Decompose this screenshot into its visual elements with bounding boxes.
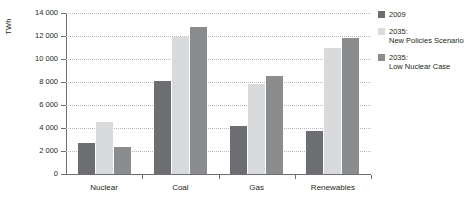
y-axis-title: TWh bbox=[4, 7, 13, 47]
y-axis-tick-label: 4 000 bbox=[39, 124, 58, 132]
y-axis-tick-label: 2 000 bbox=[39, 147, 58, 155]
x-axis-tick bbox=[142, 175, 143, 179]
bar bbox=[248, 84, 265, 174]
bar bbox=[154, 81, 171, 174]
x-axis-category-label: Coal bbox=[142, 183, 218, 192]
bar bbox=[172, 37, 189, 174]
bar-group-bars bbox=[295, 12, 371, 174]
bar bbox=[78, 143, 95, 174]
y-axis-tick-label: 10 000 bbox=[35, 55, 58, 63]
x-axis-category-label: Gas bbox=[219, 183, 295, 192]
x-axis-tick bbox=[371, 175, 372, 179]
bar bbox=[230, 126, 247, 174]
bar-group-bars bbox=[66, 12, 142, 174]
bar-group: Renewables bbox=[295, 12, 371, 174]
bar-group-bars bbox=[142, 12, 218, 174]
y-axis-tick-label: 6 000 bbox=[39, 101, 58, 109]
bar bbox=[342, 38, 359, 174]
y-axis-tick bbox=[61, 174, 66, 175]
plot-area: 02 0004 0006 0008 00010 00012 00014 000N… bbox=[66, 13, 371, 175]
legend-label: 2035:New Policies Scenario bbox=[389, 27, 464, 46]
bar-group: Coal bbox=[142, 12, 218, 174]
y-axis-tick-label: 14 000 bbox=[35, 9, 58, 17]
y-axis-tick-label: 12 000 bbox=[35, 32, 58, 40]
bar bbox=[324, 48, 341, 175]
bar bbox=[266, 76, 283, 174]
legend-swatch-icon bbox=[378, 11, 385, 18]
x-axis-tick bbox=[219, 175, 220, 179]
x-axis-category-label: Nuclear bbox=[66, 183, 142, 192]
x-axis-tick bbox=[295, 175, 296, 179]
bar-group-bars bbox=[219, 12, 295, 174]
bar-group: Gas bbox=[219, 12, 295, 174]
legend-item: 2035:New Policies Scenario bbox=[378, 27, 458, 46]
legend-label: 2009 bbox=[389, 10, 406, 20]
legend-swatch-icon bbox=[378, 54, 385, 61]
bar bbox=[96, 122, 113, 174]
legend-swatch-icon bbox=[378, 28, 385, 35]
legend-item: 2009 bbox=[378, 10, 458, 20]
legend-item: 2035:Low Nuclear Case bbox=[378, 53, 458, 72]
y-axis-tick-label: 8 000 bbox=[39, 78, 58, 86]
bar bbox=[306, 131, 323, 174]
chart-legend: 20092035:New Policies Scenario2035:Low N… bbox=[378, 10, 458, 79]
x-axis-category-label: Renewables bbox=[295, 183, 371, 192]
bar bbox=[190, 27, 207, 174]
legend-label: 2035:Low Nuclear Case bbox=[389, 53, 450, 72]
y-axis-tick-label: 0 bbox=[54, 170, 58, 178]
bar-group: Nuclear bbox=[66, 12, 142, 174]
bar bbox=[114, 147, 131, 174]
